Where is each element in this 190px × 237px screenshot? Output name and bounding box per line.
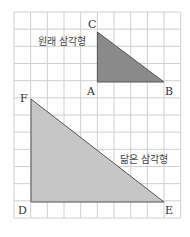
original-triangle-label: 원래 삼각형 (38, 36, 86, 47)
diagram-canvas: C A B 원래 삼각형 F D E 닮은 삼각형 (0, 0, 190, 237)
vertex-c-label: C (88, 18, 96, 31)
vertex-e-label: E (165, 204, 173, 217)
vertex-d-label: D (18, 204, 27, 217)
vertex-b-label: B (165, 85, 173, 98)
vertex-a-label: A (86, 85, 96, 98)
similar-triangle-label: 닮은 삼각형 (120, 154, 168, 165)
vertex-f-label: F (20, 92, 28, 105)
